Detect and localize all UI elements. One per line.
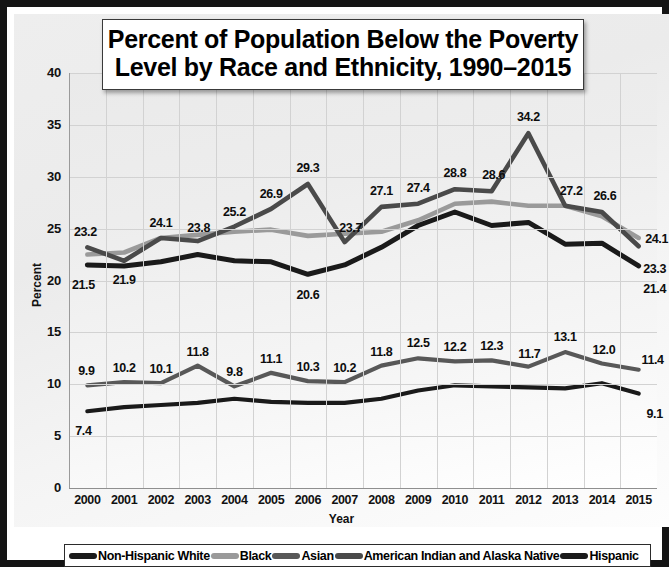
- legend-swatch-icon: [335, 553, 363, 559]
- data-point-label: 34.2: [510, 110, 546, 124]
- x-tick-label: 2001: [103, 493, 145, 507]
- legend-entry[interactable]: Black: [210, 549, 272, 563]
- data-point-label: 12.3: [474, 339, 510, 353]
- chart-title-line1: Percent of Population Below the Poverty: [107, 25, 579, 53]
- x-tick-label: 2009: [397, 493, 439, 507]
- data-point-label: 29.3: [290, 161, 326, 175]
- data-point-label: 10.2: [106, 361, 142, 375]
- legend-swatch-icon: [272, 553, 300, 559]
- data-point-label: 11.8: [180, 345, 216, 359]
- x-tick-label: 2012: [507, 493, 549, 507]
- data-point-label: 11.1: [253, 352, 289, 366]
- data-point-label: 24.1: [143, 216, 179, 230]
- legend-entry[interactable]: Hispanic: [559, 549, 638, 563]
- x-axis-title: Year: [7, 512, 669, 526]
- x-tick-label: 2004: [213, 493, 255, 507]
- x-tick-label: 2007: [324, 493, 366, 507]
- data-point-label: 11.7: [511, 347, 547, 361]
- data-point-label: 25.2: [216, 205, 252, 219]
- data-point-label: 23.7: [333, 221, 369, 235]
- y-tick-label: 30: [21, 169, 61, 184]
- data-point-label: 21.4: [637, 282, 669, 296]
- data-point-label: 24.1: [639, 232, 669, 246]
- legend-swatch-icon: [211, 553, 239, 559]
- data-point-label: 27.4: [400, 181, 436, 195]
- y-tick-label: 40: [21, 65, 61, 80]
- data-point-label: 12.5: [400, 336, 436, 350]
- data-point-label: 12.0: [586, 343, 622, 357]
- chart-panel: 0510152025303540 20002001200220032004200…: [14, 14, 669, 527]
- legend-label: Asian: [301, 549, 333, 563]
- x-tick-label: 2005: [250, 493, 292, 507]
- data-point-label: 27.1: [363, 184, 399, 198]
- data-point-label: 27.2: [553, 184, 589, 198]
- gridline-horizontal: [69, 177, 657, 178]
- x-tick-label: 2006: [287, 493, 329, 507]
- chart-legend: Non-Hispanic WhiteBlackAsianAmerican Ind…: [64, 544, 651, 567]
- legend-entry[interactable]: Non-Hispanic White: [68, 549, 210, 563]
- data-point-label: 9.9: [68, 364, 104, 378]
- x-tick-label: 2014: [581, 493, 623, 507]
- x-tick-label: 2002: [140, 493, 182, 507]
- data-point-label: 12.2: [437, 340, 473, 354]
- data-point-label: 10.1: [143, 362, 179, 376]
- data-point-label: 23.2: [67, 225, 103, 239]
- data-point-label: 23.8: [181, 221, 217, 235]
- data-point-label: 9.1: [637, 407, 669, 421]
- x-tick-label: 2008: [360, 493, 402, 507]
- chart-frame: 0510152025303540 20002001200220032004200…: [0, 0, 669, 567]
- y-tick-label: 25: [21, 221, 61, 236]
- legend-swatch-icon: [560, 553, 588, 559]
- data-point-label: 21.5: [65, 278, 101, 292]
- legend-label: Non-Hispanic White: [98, 549, 210, 563]
- y-tick-label: 15: [21, 324, 61, 339]
- legend-label: Hispanic: [589, 549, 638, 563]
- data-point-label: 13.1: [547, 330, 583, 344]
- legend-label: Black: [240, 549, 272, 563]
- data-point-label: 26.9: [253, 187, 289, 201]
- data-point-label: 26.6: [587, 189, 623, 203]
- chart-title: Percent of Population Below the Poverty …: [102, 19, 584, 90]
- data-point-label: 23.3: [637, 262, 669, 276]
- data-point-label: 10.2: [327, 361, 363, 375]
- data-point-label: 9.8: [216, 365, 252, 379]
- data-point-label: 21.9: [106, 273, 142, 287]
- data-point-label: 28.8: [437, 166, 473, 180]
- data-point-label: 11.8: [363, 345, 399, 359]
- gridline-horizontal: [69, 384, 657, 385]
- legend-entry[interactable]: American Indian and Alaska Native: [334, 549, 560, 563]
- data-point-label: 10.3: [290, 360, 326, 374]
- data-point-label: 7.4: [65, 424, 101, 438]
- chart-lines: [14, 14, 669, 567]
- x-tick-label: 2013: [544, 493, 586, 507]
- data-point-label: 20.6: [290, 288, 326, 302]
- y-tick-label: 35: [21, 117, 61, 132]
- y-tick-label: 0: [21, 480, 61, 495]
- legend-swatch-icon: [69, 553, 97, 559]
- legend-label: American Indian and Alaska Native: [364, 549, 560, 563]
- y-tick-label: 10: [21, 376, 61, 391]
- y-axis-title: Percent: [30, 262, 44, 306]
- x-tick-label: 2010: [434, 493, 476, 507]
- gridline-horizontal: [69, 281, 657, 282]
- x-tick-label: 2003: [177, 493, 219, 507]
- gridline-horizontal: [69, 436, 657, 437]
- x-tick-label: 2015: [618, 493, 660, 507]
- x-tick-label: 2000: [66, 493, 108, 507]
- legend-entry[interactable]: Asian: [271, 549, 333, 563]
- x-tick-label: 2011: [471, 493, 513, 507]
- y-tick-label: 5: [21, 428, 61, 443]
- chart-title-line2: Level by Race and Ethnicity, 1990–2015: [107, 53, 579, 81]
- data-point-label: 11.4: [635, 353, 669, 367]
- gridline-horizontal: [69, 125, 657, 126]
- gridline-horizontal: [69, 488, 657, 489]
- data-point-label: 28.6: [476, 168, 512, 182]
